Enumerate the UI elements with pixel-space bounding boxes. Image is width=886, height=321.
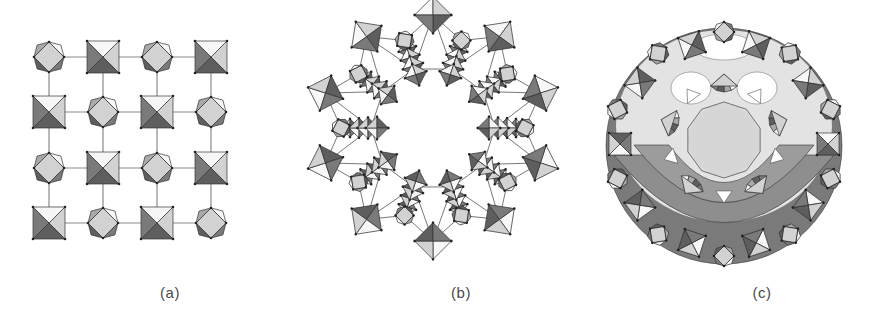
octahedron [306,144,344,182]
octahedron [521,74,559,112]
octahedron [86,151,121,186]
octahedron [87,207,120,240]
octahedron [140,95,175,130]
octahedron [306,74,344,112]
octahedron [350,203,383,236]
octahedron [32,206,67,241]
octahedron [521,144,559,182]
panel-b-label: (b) [451,284,471,301]
panel-c-label: (c) [753,284,772,301]
panel-a-octahedra-grid [32,40,229,241]
octahedron [87,96,120,129]
figure-canvas [0,0,886,321]
figure [0,0,886,321]
octahedron [483,203,516,236]
octahedron [483,20,516,53]
octahedron [413,0,453,35]
octahedron [140,206,175,241]
octahedron [86,40,121,75]
octahedron [32,95,67,130]
panel-c-octahedra-sphere [603,21,845,268]
octahedron [141,152,174,185]
octahedron [194,151,229,186]
octahedron [816,132,841,157]
octahedron [195,96,228,129]
octahedron [608,132,633,157]
octahedron [141,41,174,74]
panel-b-octahedra-wheel [306,0,559,261]
octahedron [350,20,383,53]
octahedron [33,152,66,185]
central-cavity [391,84,475,172]
panel-a-label: (a) [160,284,180,301]
octahedron [33,41,66,74]
octahedron [413,221,453,261]
octahedron [195,207,228,240]
octahedron [194,40,229,75]
